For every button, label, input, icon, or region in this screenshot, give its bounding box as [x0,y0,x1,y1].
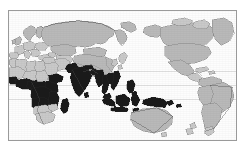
country-sri-lanka [84,92,89,98]
map-canvas: .land { fill:#b9b9b9; stroke:#6f6f6f; st… [9,11,236,140]
map-frame: .land { fill:#b9b9b9; stroke:#6f6f6f; st… [8,10,237,141]
island-mindanao [131,91,137,97]
island-kyushu [118,65,123,70]
island-tasmania [161,132,167,137]
country-ireland [12,39,15,44]
world-map-figure: World distribution map .land { fill:#b9b… [0,0,247,152]
country-nepal-bhutan [83,65,94,70]
